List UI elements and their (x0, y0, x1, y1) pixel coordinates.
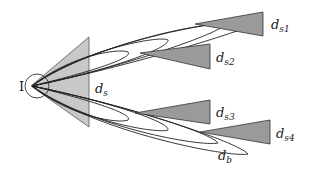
origin-label: I (19, 79, 24, 94)
beam-ds3 (135, 100, 210, 124)
label-ds4: ds4 (276, 126, 295, 143)
label-ds1: ds1 (271, 17, 290, 34)
label-ds: ds (95, 81, 108, 98)
label-ds2: ds2 (216, 50, 235, 67)
beam-ds1 (195, 12, 263, 36)
beam-ds4 (200, 120, 270, 144)
diagram-canvas: I ds ds1 ds2 ds3 ds4 db (0, 0, 310, 174)
label-db: db (218, 148, 232, 165)
beam-ds2 (140, 44, 210, 69)
label-ds3: ds3 (216, 105, 235, 122)
source-beam-ds (31, 37, 89, 127)
